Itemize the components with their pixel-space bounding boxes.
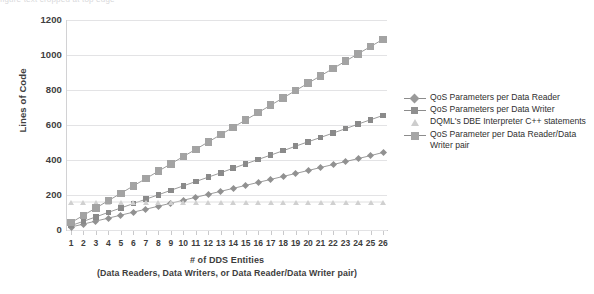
- data-point: [255, 200, 261, 205]
- y-tick-label: 1200: [4, 14, 62, 25]
- data-point: [92, 204, 100, 212]
- data-point: [268, 152, 274, 158]
- data-point: [368, 200, 374, 205]
- legend-label: QoS Parameter per Data Reader/Data Write…: [430, 129, 592, 151]
- x-tick-mark: [258, 231, 259, 235]
- chart-legend: QoS Parameters per Data ReaderQoS Parame…: [404, 92, 594, 152]
- data-point: [168, 200, 174, 205]
- data-point: [155, 200, 161, 205]
- legend-marker-icon: [404, 106, 426, 115]
- data-point: [192, 146, 200, 154]
- data-point: [293, 143, 299, 149]
- data-point: [106, 210, 112, 216]
- x-tick-mark: [208, 231, 209, 235]
- data-point: [205, 138, 213, 146]
- data-point: [329, 65, 337, 73]
- data-point: [105, 197, 113, 205]
- data-point: [318, 135, 324, 141]
- legend-label: QoS Parameters per Data Writer: [430, 104, 592, 115]
- data-point: [254, 109, 262, 117]
- data-point: [156, 192, 162, 198]
- data-point: [217, 131, 225, 139]
- data-point: [367, 43, 375, 51]
- legend-item[interactable]: QoS Parameters per Data Reader: [404, 92, 594, 103]
- data-point: [304, 79, 312, 87]
- x-tick-mark: [121, 231, 122, 235]
- x-tick-mark: [146, 231, 147, 235]
- data-point: [142, 175, 150, 183]
- data-point: [243, 161, 249, 167]
- legend-marker-icon: [404, 118, 426, 127]
- data-point: [355, 121, 361, 127]
- x-tick-mark: [71, 231, 72, 235]
- data-point: [230, 165, 236, 171]
- data-point: [143, 200, 149, 205]
- x-tick-mark: [346, 231, 347, 235]
- legend-item[interactable]: QoS Parameter per Data Reader/Data Write…: [404, 129, 594, 151]
- data-point: [205, 200, 211, 205]
- data-point: [193, 179, 199, 185]
- legend-item[interactable]: QoS Parameters per Data Writer: [404, 104, 594, 115]
- data-point: [243, 200, 249, 205]
- data-point: [255, 157, 261, 163]
- data-point: [130, 182, 138, 190]
- data-point: [330, 130, 336, 136]
- x-tick-mark: [221, 231, 222, 235]
- x-tick-mark: [358, 231, 359, 235]
- data-point: [305, 139, 311, 145]
- data-point: [379, 36, 387, 44]
- data-point: [292, 87, 300, 95]
- x-tick-mark: [133, 231, 134, 235]
- legend-label: QoS Parameters per Data Reader: [430, 92, 592, 103]
- data-point: [267, 101, 275, 109]
- legend-marker-shape: [411, 119, 419, 126]
- data-point: [342, 57, 350, 65]
- x-tick-mark: [371, 231, 372, 235]
- data-point: [279, 94, 287, 102]
- x-tick-mark: [108, 231, 109, 235]
- data-point: [230, 200, 236, 205]
- y-tick-label: 200: [4, 189, 62, 200]
- x-tick-mark: [158, 231, 159, 235]
- x-tick-mark: [183, 231, 184, 235]
- x-tick-mark: [246, 231, 247, 235]
- x-tick-mark: [196, 231, 197, 235]
- data-point: [168, 188, 174, 194]
- data-point: [68, 200, 74, 205]
- data-point: [180, 153, 188, 161]
- data-point: [343, 126, 349, 132]
- chart-figure: figure text cropped at top edge Lines of…: [0, 0, 594, 294]
- data-point: [118, 205, 124, 211]
- x-tick-mark: [96, 231, 97, 235]
- data-point: [130, 200, 136, 205]
- x-tick-mark: [296, 231, 297, 235]
- x-axis-title: # of DDS Entities: [47, 255, 407, 265]
- y-tick-label: 400: [4, 154, 62, 165]
- legend-marker-shape: [411, 132, 419, 140]
- data-point: [181, 183, 187, 189]
- y-tick-label: 600: [4, 119, 62, 130]
- x-tick-mark: [233, 231, 234, 235]
- legend-item[interactable]: DQML's DBE Interpreter C++ statements: [404, 116, 594, 127]
- x-tick-mark: [171, 231, 172, 235]
- y-tick-label: 1000: [4, 49, 62, 60]
- data-point: [354, 50, 362, 58]
- data-point: [81, 219, 87, 225]
- x-tick-mark: [383, 231, 384, 235]
- data-point: [67, 219, 75, 227]
- x-tick-mark: [333, 231, 334, 235]
- data-point: [218, 170, 224, 176]
- data-point: [318, 200, 324, 205]
- legend-marker-icon: [404, 131, 426, 140]
- data-point: [380, 113, 386, 119]
- data-point: [268, 200, 274, 205]
- x-tick-mark: [283, 231, 284, 235]
- legend-marker-icon: [404, 94, 426, 103]
- legend-label: DQML's DBE Interpreter C++ statements: [430, 116, 592, 127]
- series-lines: [67, 20, 387, 230]
- legend-marker-shape: [410, 94, 420, 104]
- data-point: [242, 116, 250, 124]
- data-point: [80, 212, 88, 220]
- data-point: [118, 200, 124, 205]
- x-tick-mark: [321, 231, 322, 235]
